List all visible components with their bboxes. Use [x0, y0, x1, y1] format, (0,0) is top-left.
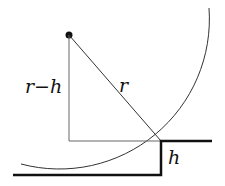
label-radius: r: [119, 76, 128, 95]
label-vertical-leg: r−h: [25, 77, 62, 96]
radius-line: [69, 35, 161, 141]
diagram-canvas: r−h r h: [0, 0, 225, 186]
step-outline: [13, 141, 212, 175]
label-step-height: h: [168, 148, 180, 167]
